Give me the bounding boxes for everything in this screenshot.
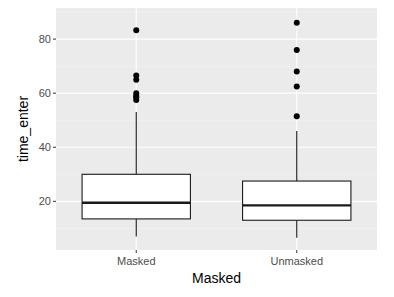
outlier-point	[133, 77, 139, 83]
iqr-box	[243, 181, 351, 220]
outlier-point	[294, 47, 300, 53]
y-tick-label: 20	[39, 195, 51, 207]
x-axis: MaskedUnmasked	[117, 250, 323, 267]
y-tick-label: 60	[39, 87, 51, 99]
y-tick-label: 40	[39, 141, 51, 153]
y-axis: 20406080	[39, 33, 56, 207]
boxplot-chart: 20406080 MaskedUnmasked Masked time_ente…	[0, 0, 394, 297]
iqr-box	[82, 174, 190, 219]
outlier-point	[294, 113, 300, 119]
y-axis-title: time_enter	[15, 96, 31, 162]
y-tick-label: 80	[39, 33, 51, 45]
outlier-point	[294, 69, 300, 75]
x-axis-title: Masked	[192, 270, 241, 286]
x-tick-label: Unmasked	[270, 255, 323, 267]
outlier-point	[133, 27, 139, 33]
outlier-point	[294, 20, 300, 26]
outlier-point	[133, 97, 139, 103]
outlier-point	[294, 83, 300, 89]
x-tick-label: Masked	[117, 255, 156, 267]
